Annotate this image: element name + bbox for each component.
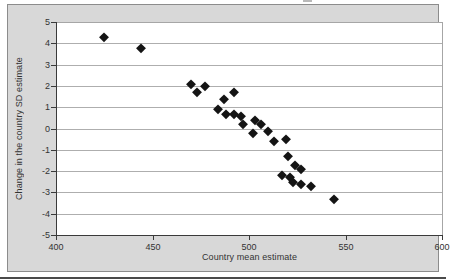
y-axis-line bbox=[56, 22, 57, 236]
x-tick-mark bbox=[346, 236, 347, 240]
y-tick-mark bbox=[51, 192, 56, 193]
y-tick-label: -2 bbox=[28, 166, 50, 176]
gridline bbox=[56, 107, 442, 108]
gridline bbox=[56, 43, 442, 44]
x-tick-label: 600 bbox=[427, 242, 454, 252]
y-tick-mark bbox=[51, 65, 56, 66]
y-tick-label: -5 bbox=[28, 230, 50, 240]
y-tick-mark bbox=[51, 86, 56, 87]
gridline bbox=[56, 192, 442, 193]
y-axis-title: Change in the country SD estimate bbox=[13, 23, 26, 235]
gridline bbox=[56, 129, 442, 130]
y-tick-label: -4 bbox=[28, 209, 50, 219]
gridline bbox=[56, 214, 442, 215]
y-tick-label: 3 bbox=[28, 60, 50, 70]
x-tick-label: 550 bbox=[331, 242, 361, 252]
y-tick-label: 0 bbox=[28, 124, 50, 134]
x-axis-title: Country mean estimate bbox=[57, 252, 442, 262]
x-tick-mark bbox=[442, 236, 443, 240]
y-tick-label: -3 bbox=[28, 187, 50, 197]
y-tick-label: 4 bbox=[28, 38, 50, 48]
chart-area: 543210-1-2-3-4-5400450500550600 Change i… bbox=[7, 4, 439, 272]
y-tick-label: 2 bbox=[28, 81, 50, 91]
y-tick-mark bbox=[51, 214, 56, 215]
y-tick-mark bbox=[51, 22, 56, 23]
y-tick-mark bbox=[51, 150, 56, 151]
gridline bbox=[56, 65, 442, 66]
x-tick-label: 450 bbox=[138, 242, 168, 252]
x-tick-mark bbox=[56, 236, 57, 240]
y-tick-mark bbox=[51, 129, 56, 130]
page-bottom-rule bbox=[0, 277, 446, 279]
x-tick-mark bbox=[153, 236, 154, 240]
x-tick-label: 400 bbox=[41, 242, 71, 252]
y-tick-mark bbox=[51, 171, 56, 172]
y-tick-mark bbox=[51, 107, 56, 108]
gridline bbox=[56, 150, 442, 151]
y-tick-mark bbox=[51, 43, 56, 44]
cutoff-text-artifact bbox=[303, 0, 312, 2]
y-tick-label: -1 bbox=[28, 145, 50, 155]
x-tick-label: 500 bbox=[234, 242, 264, 252]
y-tick-label: 5 bbox=[28, 17, 50, 27]
y-tick-label: 1 bbox=[28, 102, 50, 112]
x-tick-mark bbox=[249, 236, 250, 240]
gridline bbox=[56, 171, 442, 172]
gridline bbox=[56, 86, 442, 87]
